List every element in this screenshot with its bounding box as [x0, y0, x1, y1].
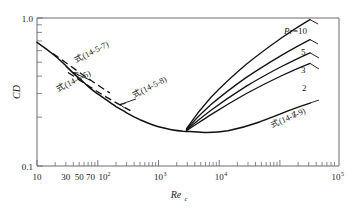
label-pr-3: 3 — [301, 65, 306, 75]
y-axis-ticks — [37, 18, 43, 166]
curve-end-connectors — [310, 20, 319, 104]
x-tick-label-100-exponent: 2 — [108, 171, 111, 177]
connector-pr-3 — [310, 53, 319, 58]
annotation-eq-14-5-7: 式(14-5-7) — [72, 39, 110, 65]
x-tick-label-70: 70 — [86, 172, 96, 182]
label-pr-10: Pr=10 — [283, 26, 308, 36]
label-pr-2: 2 — [302, 83, 307, 93]
y-tick-label-bottom: 0.1 — [22, 162, 33, 172]
plot-frame — [37, 18, 339, 166]
connector-pr-2 — [310, 63, 319, 69]
x-tick-label-100000-group: 10 5 — [332, 171, 345, 182]
y-tick-label-top: 1.0 — [22, 14, 34, 24]
x-tick-label-100-group: 10 2 — [99, 171, 111, 182]
connector-pr-1 — [310, 100, 319, 103]
x-tick-label-100000-base: 10 — [332, 172, 342, 182]
chart-plot-area: 1.0 0.1 10 30 50 70 10 2 10 3 10 4 10 5 … — [0, 0, 356, 211]
x-tick-label-10: 10 — [33, 172, 43, 182]
y-axis-title-group: CD — [11, 84, 22, 99]
label-pr-5: 5 — [301, 47, 306, 57]
chart-figure: 1.0 0.1 10 30 50 70 10 2 10 3 10 4 10 5 … — [0, 0, 356, 211]
x-axis-title-main: Re — [170, 189, 182, 200]
leader-eq-14-5-8-arrow-a — [120, 104, 126, 105]
connector-pr-10 — [310, 20, 318, 24]
label-pr-10-value: =10 — [293, 26, 308, 36]
label-pr-10-symbol: Pr — [283, 26, 293, 36]
y-axis-title: CD — [11, 84, 22, 99]
x-tick-label-30: 30 — [61, 172, 71, 182]
leader-eq-14-5-8-arrow-b — [120, 105, 124, 108]
annotation-eq-14-5-9: 式(14-5-9) — [269, 105, 307, 129]
x-tick-label-10000-group: 10 4 — [215, 171, 228, 182]
x-axis-ticks — [37, 160, 335, 166]
label-pr-1: 1 — [292, 109, 297, 119]
x-tick-label-100000-exponent: 5 — [341, 171, 344, 177]
x-tick-label-1000-base: 10 — [154, 172, 164, 182]
annotation-eq-14-5-8: 式(14-5-8) — [130, 74, 168, 100]
x-tick-label-10000-exponent: 4 — [224, 171, 227, 177]
x-axis-title-subscript: c — [185, 195, 188, 202]
x-tick-label-1000-group: 10 3 — [154, 171, 167, 182]
x-tick-label-1000-exponent: 3 — [164, 171, 167, 177]
x-tick-label-50: 50 — [75, 172, 85, 182]
x-tick-label-10000-base: 10 — [215, 172, 225, 182]
x-axis-title-group: Re c — [170, 189, 188, 202]
connector-pr-5 — [310, 40, 318, 44]
annotation-eq-14-5-5: 式(14-5-5) — [54, 68, 92, 94]
